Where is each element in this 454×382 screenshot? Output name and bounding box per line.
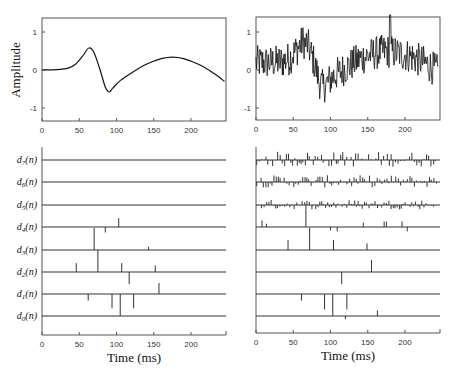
- row-d0n: [256, 311, 440, 320]
- y-tick-label: 0: [33, 66, 38, 75]
- x-tick-label: 150: [147, 126, 161, 135]
- top-left-frame: [42, 18, 226, 121]
- row-d7n: d7(n): [17, 154, 226, 167]
- x-tick-label: 150: [361, 338, 375, 347]
- row-label: d5(n): [17, 199, 38, 212]
- x-tick-label: 200: [398, 338, 412, 347]
- x-tick-label: 200: [398, 125, 412, 134]
- x-tick-label: 50: [75, 340, 84, 349]
- y-tick-label: 1: [247, 28, 252, 37]
- row-d2n: d2(n): [17, 250, 226, 284]
- row-label: d2(n): [17, 266, 38, 279]
- x-tick-label: 100: [110, 126, 124, 135]
- x-tick-label: 150: [147, 340, 161, 349]
- row-d4n: [256, 205, 440, 231]
- bottom-right-rows: [256, 152, 440, 319]
- x-tick-label: 0: [254, 125, 259, 134]
- x-tick-label: 0: [254, 338, 259, 347]
- row-label: d0(n): [17, 310, 38, 323]
- clean-signal-line: [42, 48, 225, 92]
- top-left-plot: 05010015020010-1 Amplitude: [8, 18, 226, 135]
- row-d6n: d6(n): [17, 176, 226, 189]
- x-tick-label: 100: [324, 338, 338, 347]
- x-tick-label: 50: [289, 125, 298, 134]
- row-d0n: d0(n): [17, 310, 226, 323]
- bottom-left-plot: d7(n)d6(n)d5(n)d4(n)d3(n)d2(n)d1(n)d0(n)…: [17, 147, 226, 365]
- row-label: d3(n): [17, 244, 38, 257]
- x-tick-label: 50: [289, 338, 298, 347]
- row-d5n: [256, 200, 440, 209]
- bottom-right-plot: 050100150200 Time (ms): [254, 147, 440, 363]
- y-axis-title: Amplitude: [8, 42, 23, 98]
- x-tick-label: 0: [40, 340, 45, 349]
- top-right-plot: 05010015020010-1: [244, 15, 440, 134]
- wavelet-figure: 05010015020010-1 Amplitude 0501001502001…: [0, 0, 454, 382]
- x-tick-label: 150: [361, 125, 375, 134]
- row-label: d1(n): [17, 288, 38, 301]
- row-d7n: [256, 152, 440, 167]
- y-tick-label: 0: [247, 66, 252, 75]
- x-tick-label: 200: [184, 126, 198, 135]
- x-axis-title-left: Time (ms): [107, 350, 161, 365]
- row-d1n: [256, 294, 440, 316]
- y-tick-label: -1: [244, 104, 252, 113]
- x-tick-label: 100: [324, 125, 338, 134]
- x-tick-label: 100: [110, 340, 124, 349]
- bottom-left-rows: d7(n)d6(n)d5(n)d4(n)d3(n)d2(n)d1(n)d0(n): [17, 154, 226, 323]
- x-tick-label: 50: [75, 126, 84, 135]
- row-d2n: [256, 260, 440, 284]
- noisy-signal-line: [256, 15, 438, 102]
- row-d1n: d1(n): [17, 283, 226, 316]
- row-label: d7(n): [17, 154, 38, 167]
- x-axis-title-right: Time (ms): [321, 348, 375, 363]
- row-d6n: [256, 175, 440, 187]
- row-label: d4(n): [17, 221, 38, 234]
- x-tick-label: 0: [40, 126, 45, 135]
- top-left-ticks: 05010015020010-1: [30, 28, 198, 135]
- row-label: d6(n): [17, 176, 38, 189]
- x-tick-label: 200: [184, 340, 198, 349]
- y-tick-label: -1: [30, 104, 38, 113]
- row-d3n: d3(n): [17, 228, 226, 257]
- y-tick-label: 1: [33, 28, 38, 37]
- row-d5n: d5(n): [17, 199, 226, 212]
- row-d4n: d4(n): [17, 218, 226, 234]
- row-d3n: [256, 228, 440, 250]
